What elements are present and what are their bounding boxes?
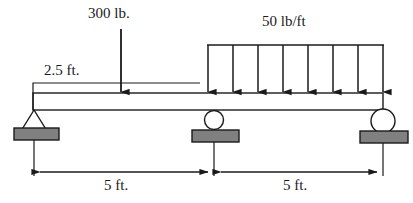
beam-member (33, 93, 383, 110)
roller-circle (371, 109, 395, 133)
roller-circle (205, 111, 224, 130)
roller-base-plate (360, 131, 408, 143)
distributed-load-group (207, 45, 384, 92)
pin-base-plate (14, 128, 59, 140)
distributed-load-label: 50 lb/ft (262, 14, 306, 29)
span-right-dimension-label: 5 ft. (283, 178, 307, 193)
support-roller-middle (192, 111, 239, 177)
distributed-load-arrows (208, 45, 383, 92)
overhang-dimension-label: 2.5 ft. (44, 63, 79, 78)
beam-diagram: 300 lb. 50 lb/ft 2.5 ft. 5 ft. 5 ft. (0, 0, 413, 203)
span-left-dimension-label: 5 ft. (104, 178, 128, 193)
beam-body (33, 93, 383, 110)
support-roller-right (360, 109, 408, 176)
support-pin-left (14, 110, 59, 176)
point-load-label: 300 lb. (88, 6, 130, 21)
roller-base-plate (192, 130, 239, 142)
beam-diagram-canvas (0, 0, 413, 203)
